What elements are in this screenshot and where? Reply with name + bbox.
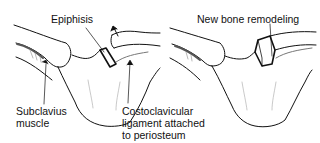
- label-subclavius-line2: muscle: [16, 117, 49, 129]
- diagram-canvas: Epiphisis Subclavius muscle Costoclavicu…: [0, 0, 320, 143]
- label-subclavius-line1: Subclavius: [16, 105, 67, 117]
- label-epiphysis: Epiphisis: [51, 13, 93, 25]
- label-costoclavicular-line1: Costoclavicular: [122, 105, 193, 117]
- label-costoclavicular-line3: to periosteum: [122, 129, 186, 141]
- label-new-bone-remodeling: New bone remodeling: [197, 13, 299, 25]
- label-costoclavicular-line2: ligament attached: [122, 117, 205, 129]
